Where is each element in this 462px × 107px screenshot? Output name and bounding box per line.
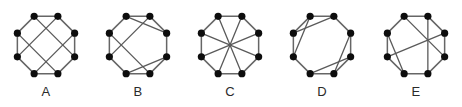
graph-node	[238, 70, 245, 77]
graph-node	[384, 53, 391, 60]
graph-node	[255, 53, 262, 60]
graph-label-e: E	[370, 84, 462, 100]
graph-node	[14, 30, 21, 37]
graph-panel-c: C	[184, 0, 276, 107]
graph-node	[163, 53, 170, 60]
graph-node	[163, 30, 170, 37]
graph-node	[347, 53, 354, 60]
graph-chord-edge	[310, 57, 351, 74]
graph-chord-edge	[17, 16, 58, 57]
graph-node	[14, 53, 21, 60]
graph-chord-edge	[293, 16, 310, 57]
graph-node	[330, 13, 337, 20]
graph-node	[215, 13, 222, 20]
graph-chord-edge	[334, 33, 351, 74]
graph-panel-b: B	[92, 0, 184, 107]
graph-node	[441, 30, 448, 37]
graph-drawing-a	[0, 6, 92, 84]
graph-label-c: C	[184, 84, 276, 100]
graph-node	[71, 53, 78, 60]
graph-node	[71, 30, 78, 37]
graph-node	[146, 70, 153, 77]
graph-node	[330, 70, 337, 77]
graph-node	[198, 30, 205, 37]
graph-drawing-e	[370, 6, 462, 84]
graph-chord-edge	[387, 33, 404, 74]
graph-node	[123, 13, 130, 20]
graph-drawing-d	[276, 6, 368, 84]
graph-node	[106, 30, 113, 37]
graph-chord-edge	[404, 16, 445, 57]
graph-node	[401, 13, 408, 20]
graph-drawing-c	[184, 6, 276, 84]
graph-node	[384, 30, 391, 37]
graph-node	[146, 13, 153, 20]
graph-chord-edge	[109, 16, 150, 57]
graph-node	[401, 70, 408, 77]
graph-node	[290, 53, 297, 60]
graph-node	[255, 30, 262, 37]
graph-chord-edge	[126, 16, 167, 33]
graph-node	[31, 70, 38, 77]
graph-label-b: B	[92, 84, 184, 100]
graph-node	[215, 70, 222, 77]
graph-node	[198, 53, 205, 60]
graph-node	[307, 13, 314, 20]
graph-chord-edge	[34, 33, 75, 74]
graph-node	[424, 13, 431, 20]
graph-node	[424, 70, 431, 77]
graph-node	[307, 70, 314, 77]
graph-drawing-b	[92, 6, 184, 84]
graph-figure: ABCDE	[0, 0, 462, 107]
graph-chord-edge	[109, 33, 150, 74]
graph-node	[106, 53, 113, 60]
graph-label-a: A	[0, 84, 92, 100]
graph-node	[441, 53, 448, 60]
graph-panel-d: D	[276, 0, 368, 107]
graph-chord-edge	[34, 16, 75, 57]
graph-chord-edge	[293, 16, 334, 33]
graph-node	[290, 30, 297, 37]
graph-node	[123, 70, 130, 77]
graph-label-d: D	[276, 84, 368, 100]
graph-node	[238, 13, 245, 20]
graph-chord-edge	[17, 33, 58, 74]
graph-node	[347, 30, 354, 37]
graph-panel-a: A	[0, 0, 92, 107]
graph-node	[31, 13, 38, 20]
graph-panel-e: E	[370, 0, 462, 107]
graph-node	[54, 13, 61, 20]
graph-node	[54, 70, 61, 77]
graph-chord-edge	[126, 57, 167, 74]
